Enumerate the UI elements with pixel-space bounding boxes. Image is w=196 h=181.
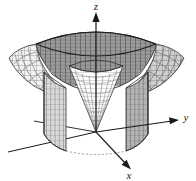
figure-canvas: z y x: [0, 0, 196, 181]
math-figure-3d: z y x: [0, 0, 196, 181]
y-axis-label: y: [183, 111, 189, 123]
x-axis-label: x: [126, 169, 132, 181]
z-axis-label: z: [93, 0, 99, 12]
